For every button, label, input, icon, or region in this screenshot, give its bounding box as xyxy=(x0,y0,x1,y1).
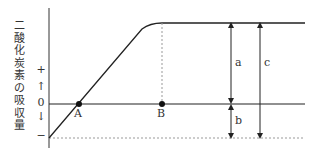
absorption-curve xyxy=(49,23,305,138)
label-b-point: B xyxy=(157,107,165,120)
graph xyxy=(0,0,318,155)
label-a-point: A xyxy=(74,107,82,120)
label-b: b xyxy=(235,114,242,127)
label-a: a xyxy=(235,56,242,69)
label-c: c xyxy=(264,56,270,69)
